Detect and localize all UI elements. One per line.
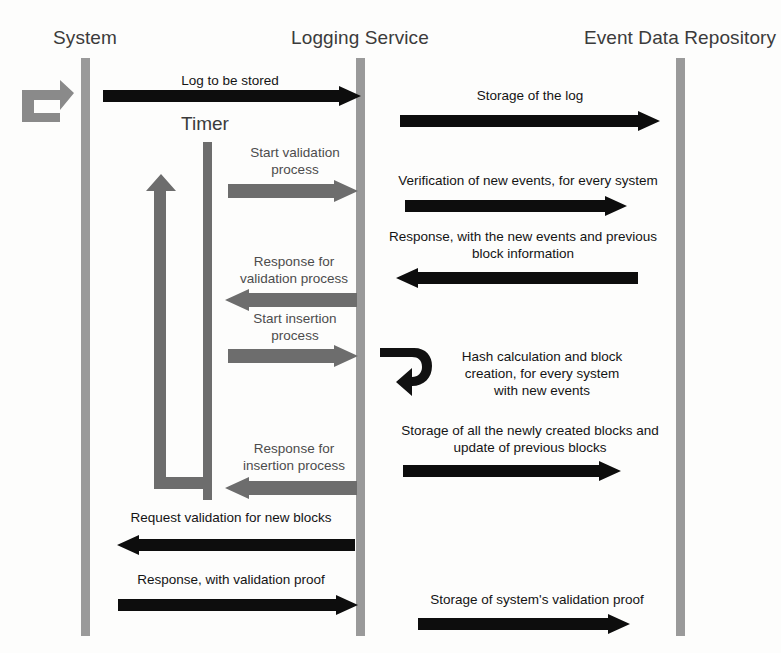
message-arrow-storage-newly-created-blocks <box>403 461 621 481</box>
message-arrow-verification-of-new-events <box>405 196 627 216</box>
timer-loop-back-arrow <box>140 155 216 499</box>
actor-label-event-data-repository: Event Data Repository <box>580 27 780 49</box>
message-label-response-for-insertion-process: Response for insertion process <box>210 440 378 474</box>
system-self-loop-icon <box>14 80 76 136</box>
message-arrow-start-validation-process <box>228 180 358 202</box>
message-label-storage-system-validation-proof: Storage of system's validation proof <box>404 591 670 608</box>
message-arrow-request-validation-new-blocks <box>117 535 355 555</box>
message-label-request-validation-new-blocks: Request validation for new blocks <box>98 509 364 526</box>
timer-label: Timer <box>150 113 260 135</box>
lifeline-event-data-repository <box>676 58 685 636</box>
sequence-diagram-canvas: System Logging Service Event Data Reposi… <box>0 0 781 653</box>
actor-label-logging-service: Logging Service <box>280 27 440 49</box>
message-arrow-response-new-events-previous-block <box>396 268 638 288</box>
message-label-hash-calculation: Hash calculation and block creation, for… <box>432 348 652 399</box>
message-arrow-log-to-be-stored <box>103 86 361 106</box>
message-arrow-storage-system-validation-proof <box>418 614 630 634</box>
message-label-start-validation-process: Start validation process <box>215 144 375 178</box>
message-label-verification-of-new-events: Verification of new events, for every sy… <box>378 172 678 189</box>
message-label-storage-of-the-log: Storage of the log <box>400 87 660 104</box>
lifeline-system <box>81 58 90 636</box>
message-label-storage-newly-created-blocks: Storage of all the newly created blocks … <box>374 422 686 456</box>
message-arrow-response-validation-proof <box>118 595 358 615</box>
message-label-response-validation-proof: Response, with validation proof <box>102 571 360 588</box>
message-label-start-insertion-process: Start insertion process <box>215 310 375 344</box>
message-label-response-new-events-previous-block: Response, with the new events and previo… <box>368 228 678 262</box>
actor-label-system: System <box>5 27 165 49</box>
message-arrow-response-for-validation-process <box>225 289 357 311</box>
message-arrow-start-insertion-process <box>228 345 358 367</box>
message-arrow-response-for-insertion-process <box>225 477 357 499</box>
hash-calculation-self-loop-icon <box>374 344 436 402</box>
message-arrow-storage-of-the-log <box>400 111 660 131</box>
message-label-response-for-validation-process: Response for validation process <box>210 253 378 287</box>
